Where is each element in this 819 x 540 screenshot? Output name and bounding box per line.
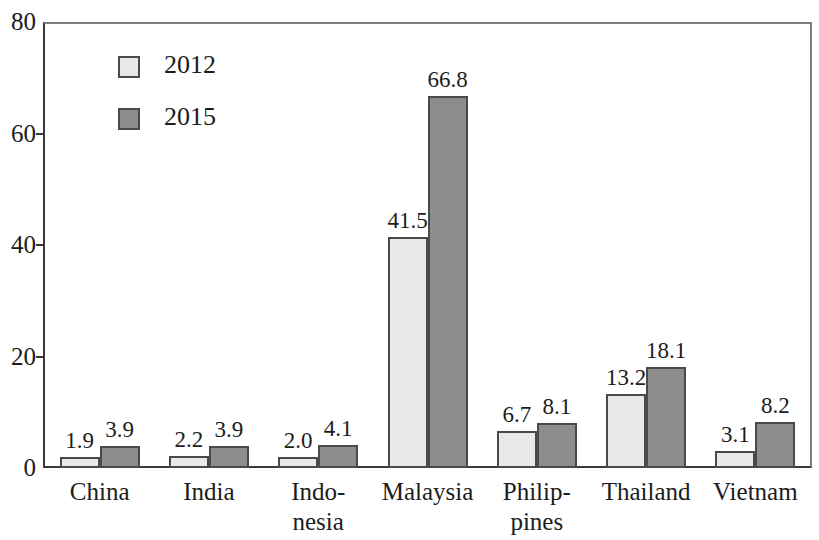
bar-philippines-2012 [497, 431, 537, 468]
x-axis-label-thailand: Thailand [591, 477, 700, 507]
bar-value-label: 3.9 [86, 418, 154, 441]
y-axis-tick [36, 133, 45, 135]
bar-chart: 020406080 1.93.92.23.92.04.141.566.86.78… [0, 0, 819, 540]
bar-value-label: 8.1 [523, 395, 591, 418]
bar-value-label: 18.1 [632, 339, 700, 362]
x-axis-label-india: India [154, 477, 263, 507]
bar-value-label: 3.9 [195, 418, 263, 441]
x-axis-label-philippines: Philip-pines [482, 477, 591, 537]
x-axis-label-malaysia: Malaysia [373, 477, 482, 507]
y-axis-tick-label: 0 [0, 455, 36, 480]
x-axis-label-line: India [154, 477, 263, 507]
legend-swatch-2012-icon [118, 56, 140, 78]
bar-thailand-2012 [606, 394, 646, 468]
x-axis-label-line: nesia [264, 507, 373, 537]
bar-indonesia-2012 [278, 457, 318, 468]
legend-swatch-2015-icon [118, 108, 140, 130]
y-axis-tick-label: 60 [0, 121, 36, 146]
x-axis-label-indonesia: Indo-nesia [264, 477, 373, 537]
bar-malaysia-2015 [428, 96, 468, 468]
y-axis-tick [36, 356, 45, 358]
bars-layer: 1.93.92.23.92.04.141.566.86.78.113.218.1… [45, 22, 810, 468]
legend-label-2015: 2015 [164, 102, 216, 132]
x-axis-label-line: Indo- [264, 477, 373, 507]
y-axis-tick-label: 20 [0, 344, 36, 369]
bar-china-2012 [60, 457, 100, 468]
bar-malaysia-2012 [388, 237, 428, 468]
x-axis-label-line: Malaysia [373, 477, 482, 507]
bar-vietnam-2012 [715, 451, 755, 468]
y-axis-tick-label: 80 [0, 9, 36, 34]
x-axis-label-china: China [45, 477, 154, 507]
x-axis-label-line: pines [482, 507, 591, 537]
x-axis-label-vietnam: Vietnam [701, 477, 810, 507]
bar-value-label: 66.8 [414, 68, 482, 91]
bar-indonesia-2015 [318, 445, 358, 468]
bar-vietnam-2015 [755, 422, 795, 468]
bar-china-2015 [100, 446, 140, 468]
bar-philippines-2015 [537, 423, 577, 468]
bar-value-label: 4.1 [304, 417, 372, 440]
x-axis-label-line: Vietnam [701, 477, 810, 507]
x-axis-label-line: China [45, 477, 154, 507]
bar-india-2012 [169, 456, 209, 468]
y-axis-tick-label: 40 [0, 232, 36, 257]
bar-thailand-2015 [646, 367, 686, 468]
bar-india-2015 [209, 446, 249, 468]
y-axis-tick [36, 244, 45, 246]
bar-value-label: 8.2 [741, 394, 809, 417]
legend-label-2012: 2012 [164, 50, 216, 80]
x-axis-label-line: Philip- [482, 477, 591, 507]
x-axis-label-line: Thailand [591, 477, 700, 507]
